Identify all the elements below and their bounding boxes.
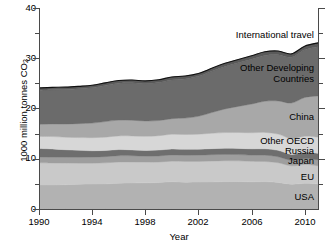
x-tick-2010 bbox=[305, 210, 306, 215]
plot-right-border bbox=[318, 8, 319, 210]
x-tick-label-2006: 2006 bbox=[235, 217, 269, 227]
y-tick-right-30 bbox=[319, 58, 325, 59]
x-tick-2002 bbox=[198, 210, 199, 215]
series-label-other-developing-line1: Other Developing bbox=[240, 62, 314, 73]
y-tick-right-35 bbox=[319, 33, 323, 34]
x-tick-1990 bbox=[39, 210, 40, 215]
y-tick-label-10: 10 bbox=[12, 153, 36, 163]
series-label-japan: Japan bbox=[288, 156, 314, 167]
area-band-usa bbox=[39, 182, 318, 209]
x-tick-label-1990: 1990 bbox=[22, 217, 56, 227]
co2-emissions-stacked-area-chart: 1000 million tonnes CO2 40 30 20 10 0 In… bbox=[0, 0, 329, 250]
y-tick-right-25 bbox=[319, 83, 323, 84]
x-tick-label-2002: 2002 bbox=[181, 217, 215, 227]
plot-area: International travel Other Developing Co… bbox=[39, 8, 318, 209]
y-tick-right-15 bbox=[319, 134, 323, 135]
y-axis-line bbox=[39, 8, 40, 210]
series-label-other-developing-line2: Countries bbox=[240, 73, 314, 84]
x-tick-2006 bbox=[252, 210, 253, 215]
y-tick-right-10 bbox=[319, 159, 325, 160]
x-tick-label-1998: 1998 bbox=[128, 217, 162, 227]
x-tick-1998 bbox=[145, 210, 146, 215]
y-tick-right-5 bbox=[319, 184, 323, 185]
series-label-china: China bbox=[289, 112, 314, 123]
x-tick-label-1994: 1994 bbox=[75, 217, 109, 227]
series-label-eu: EU bbox=[301, 172, 314, 183]
y-tick-right-20 bbox=[319, 108, 325, 109]
x-axis-title: Year bbox=[39, 232, 319, 242]
x-tick-1994 bbox=[92, 210, 93, 215]
series-label-international-travel: International travel bbox=[236, 30, 314, 41]
x-axis-line bbox=[39, 209, 319, 210]
area-band-eu bbox=[39, 161, 318, 185]
y-tick-right-40 bbox=[319, 8, 325, 9]
series-label-usa: USA bbox=[294, 192, 314, 203]
series-label-other-developing-countries: Other Developing Countries bbox=[240, 62, 314, 84]
x-tick-label-2010: 2010 bbox=[288, 217, 322, 227]
